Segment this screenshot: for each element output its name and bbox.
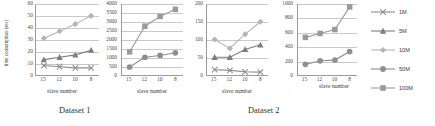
y-tick-label: 40 (28, 25, 33, 30)
y-tick-label: 1000 (282, 1, 293, 6)
series-5M (211, 42, 263, 60)
y-tick-label: 3500 (106, 10, 117, 15)
y-tick-label: 0 (200, 73, 203, 78)
chart-panel-4: 02004006008001000 1512108 slave number (272, 4, 368, 96)
caption-dataset-2: Dataset 2 (248, 106, 279, 115)
caption-dataset-1: Dataset 1 (59, 106, 90, 115)
y-tick-label: 30 (28, 37, 33, 42)
chart-panel-3: 050100150200 1512108 slave number (184, 4, 276, 96)
y-tick-label: 200 (285, 59, 293, 64)
legend-item-50M[interactable]: 50M (370, 65, 410, 73)
series-layer (122, 4, 183, 75)
y-tick-label: 20 (28, 49, 33, 54)
y-axis-ticks-chart-2: 05001000150020002500300035004000 (96, 4, 118, 76)
x-axis-ticks-chart-2: 1512108 (121, 77, 183, 87)
y-tick-label: 500 (109, 64, 117, 69)
chart-panel-2: 05001000150020002500300035004000 1512108… (96, 4, 190, 96)
x-tick-label: 8 (348, 77, 351, 82)
legend-label: 100M (399, 85, 413, 91)
legend-item-5M[interactable]: 5M (370, 27, 407, 35)
plot-area-chart-1 (35, 4, 99, 76)
x-tick-label: 15 (302, 77, 307, 82)
x-axis-title-chart-2: slave number (110, 88, 194, 94)
legend-label: 1M (399, 9, 407, 15)
multi-chart-figure: time consumption (sec) 0102030405060 151… (0, 0, 435, 126)
x-tick-label: 12 (142, 77, 147, 82)
y-tick-label: 100 (195, 37, 203, 42)
x-axis-title-chart-4: slave number (300, 83, 368, 89)
y-tick-label: 1500 (106, 46, 117, 51)
x-axis-title-chart-3: slave number (194, 88, 280, 94)
cross-marker (370, 8, 396, 16)
x-tick-label: 10 (157, 77, 162, 82)
x-tick-label: 12 (227, 77, 232, 82)
x-axis-title-chart-1: slave number (22, 88, 102, 94)
series-100M (303, 4, 353, 40)
plot-area-chart-4 (297, 4, 357, 76)
x-tick-label: 10 (242, 77, 247, 82)
x-tick-label: 8 (90, 77, 93, 82)
y-tick-label: 800 (285, 16, 293, 21)
circle-marker (370, 65, 396, 73)
y-tick-label: 400 (285, 44, 293, 49)
y-tick-label: 2500 (106, 28, 117, 33)
y-tick-label: 0 (114, 73, 117, 78)
legend-label: 5M (399, 28, 407, 34)
series-50M (127, 50, 178, 70)
chart-panel-1: time consumption (sec) 0102030405060 151… (2, 4, 102, 96)
series-layer (207, 4, 268, 75)
x-tick-label: 10 (332, 77, 337, 82)
x-axis-ticks-chart-1: 1512108 (35, 77, 99, 87)
y-tick-label: 1000 (106, 55, 117, 60)
series-1M (212, 67, 263, 75)
plot-area-chart-2 (121, 4, 183, 76)
y-tick-label: 0 (290, 73, 293, 78)
x-axis-ticks-chart-3: 1512108 (206, 77, 268, 87)
y-tick-label: 50 (198, 55, 203, 60)
legend-label: 10M (399, 47, 410, 53)
x-tick-label: 8 (259, 77, 262, 82)
x-tick-label: 12 (317, 77, 322, 82)
triangle-marker (370, 27, 396, 35)
y-tick-label: 150 (195, 19, 203, 24)
y-tick-label: 60 (28, 1, 33, 6)
y-tick-label: 4000 (106, 1, 117, 6)
square-marker (370, 84, 396, 92)
x-tick-label: 12 (56, 77, 61, 82)
series-layer (36, 4, 99, 75)
y-axis-ticks-chart-4: 02004006008001000 (272, 4, 294, 76)
y-tick-label: 3000 (106, 19, 117, 24)
y-tick-label: 2000 (106, 37, 117, 42)
legend-item-100M[interactable]: 100M (370, 84, 413, 92)
x-tick-label: 15 (40, 77, 45, 82)
series-10M (41, 13, 94, 42)
x-tick-label: 10 (72, 77, 77, 82)
y-tick-label: 50 (28, 13, 33, 18)
series-layer (298, 4, 357, 75)
legend-label: 50M (399, 66, 410, 72)
y-axis-ticks-chart-3: 050100150200 (184, 4, 204, 76)
y-tick-label: 10 (28, 61, 33, 66)
x-tick-label: 15 (211, 77, 216, 82)
y-axis-title-chart-1: time consumption (sec) (0, 4, 12, 82)
series-5M (41, 47, 95, 62)
plot-area-chart-3 (206, 4, 268, 76)
series-1M (41, 63, 94, 71)
y-tick-label: 600 (285, 30, 293, 35)
y-tick-label: 0 (30, 73, 33, 78)
diamond-marker (370, 46, 396, 54)
legend-item-1M[interactable]: 1M (370, 8, 407, 16)
x-tick-label: 8 (174, 77, 177, 82)
series-100M (127, 7, 178, 55)
series-50M (303, 49, 353, 67)
y-axis-ticks-chart-1: 0102030405060 (14, 4, 34, 76)
legend-item-10M[interactable]: 10M (370, 46, 410, 54)
x-tick-label: 15 (126, 77, 131, 82)
y-tick-label: 200 (195, 1, 203, 6)
